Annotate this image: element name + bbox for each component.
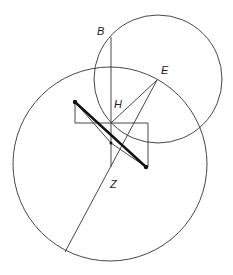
lower-right-dot — [144, 165, 148, 169]
label-Z: Z — [109, 178, 118, 190]
label-B: B — [97, 25, 104, 37]
large-circle — [13, 67, 207, 261]
label-E: E — [161, 64, 169, 76]
small-circle — [94, 15, 222, 143]
geometry-diagram: B E H Z — [0, 0, 233, 275]
thick-diagonal — [75, 102, 146, 167]
upper-left-dot — [73, 100, 77, 104]
center-dot — [110, 142, 113, 145]
label-H: H — [114, 98, 122, 110]
